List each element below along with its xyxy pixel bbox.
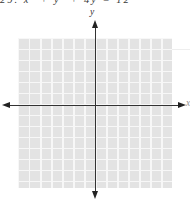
cropped-equation-line: 29. x² + y² + 4y = 12 xyxy=(0,0,190,6)
y-axis-label: y xyxy=(90,8,94,18)
scan-artifact-line xyxy=(172,49,190,50)
x-axis-arrow-right-icon xyxy=(178,102,186,108)
y-axis-arrow-up-icon xyxy=(92,20,98,28)
x-axis-arrow-left-icon xyxy=(2,102,10,108)
y-axis xyxy=(95,27,96,192)
y-axis-arrow-down-icon xyxy=(92,191,98,199)
x-axis xyxy=(8,105,178,106)
textbook-figure: 29. x² + y² + 4y = 12 y x xyxy=(0,0,190,204)
x-axis-label: x xyxy=(186,99,190,109)
problem-equation-text: 29. x² + y² + 4y = 12 xyxy=(0,0,190,5)
